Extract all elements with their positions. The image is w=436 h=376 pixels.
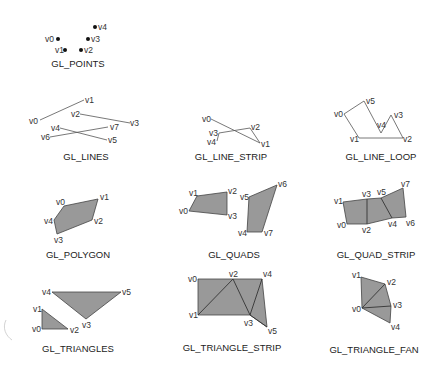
vertex-label: v3 [54,235,63,245]
vertex-label: v4 [42,287,51,297]
diagram-title: GL_POINTS [51,58,104,69]
vertex-label: v3 [228,211,237,221]
vertex-label: v3 [91,34,100,44]
panel-gl-polygon: v0 v1 v2 v3 v4 GL_POLYGON [44,192,110,260]
vertex-label: v5 [268,326,277,336]
diagram-title: GL_TRIANGLES [42,343,114,354]
vertex-label: v3 [394,110,403,120]
opengl-primitives-diagram: v0 v1 v2 v3 v4 GL_POINTS v0 v1 v2 v3 v4 … [0,0,436,376]
vertex-label: v3 [82,320,91,330]
vertex-label: v3 [393,300,402,310]
vertex-label: v4 [388,219,397,229]
vertex-label: v4 [377,120,386,130]
vertex-label: v1 [85,95,94,105]
vertex-label: v5 [240,192,249,202]
vertex-label: v2 [228,186,237,196]
vertex-label: v3 [362,189,371,199]
panel-gl-quad-strip: v0 v1 v2 v3 v4 v5 v6 v7 GL_QUAD_STRIP [334,179,415,260]
vertex-label: v2 [94,216,103,226]
diagram-title: GL_LINES [63,151,108,162]
vertex-label: v1 [352,270,361,280]
vertex-label: v7 [264,228,273,238]
panel-gl-line-strip: v0 v1 v2 v3 v4 GL_LINE_STRIP [195,114,270,162]
vertex-label: v6 [41,132,50,142]
diagram-title: GL_POLYGON [46,249,110,260]
stray-mark [4,320,12,340]
vertex-label: v4 [98,22,107,32]
panel-gl-line-loop: v0 v1 v2 v3 v4 v5 GL_LINE_LOOP [334,96,416,162]
diagram-title: GL_QUAD_STRIP [337,249,416,260]
vertex-label: v4 [238,228,247,238]
vertex-label: v0 [352,304,361,314]
vertex-label: v7 [401,179,410,189]
vertex-label: v2 [362,225,371,235]
vertex-label: v0 [334,109,343,119]
diagram-title: GL_TRIANGLE_FAN [329,344,418,355]
vertex-label: v1 [261,139,270,149]
vertex-label: v0 [202,114,211,124]
vertex-label: v1 [334,196,343,206]
vertex-label: v6 [406,218,415,228]
vertex-label: v0 [179,206,188,216]
vertex-label: v0 [337,220,346,230]
vertex-label: v2 [403,134,412,144]
vertex-label: v2 [251,122,260,132]
vertex-label: v4 [44,216,53,226]
diagram-title: GL_QUADS [208,249,260,260]
vertex-label: v4 [263,269,272,279]
panel-gl-quads: v0 v1 v2 v3 v4 v5 v6 v7 GL_QUADS [179,179,287,260]
vertex-label: v6 [278,179,287,189]
panel-gl-triangle-strip: v0 v1 v2 v3 v4 v5 GL_TRIANGLE_STRIP [183,269,282,353]
vertex-label: v3 [244,318,253,328]
vertex-label: v4 [207,137,216,147]
vertex-label: v4 [51,123,60,133]
panel-gl-triangles: v0 v1 v2 v3 v4 v5 GL_TRIANGLES [4,287,131,354]
diagram-title: GL_LINE_STRIP [195,151,267,162]
vertex-label: v5 [108,135,117,145]
vertex-label: v5 [366,96,375,106]
vertex-label: v1 [33,304,42,314]
vertex-label: v0 [29,116,38,126]
vertex-label: v1 [189,188,198,198]
panel-gl-triangle-fan: v0 v1 v2 v3 v4 GL_TRIANGLE_FAN [329,270,418,355]
vertex-label: v0 [56,197,65,207]
vertex-label: v0 [32,324,41,334]
vertex-label: v5 [122,287,131,297]
vertex-label: v0 [188,274,197,284]
vertex-label: v1 [350,134,359,144]
panel-gl-points: v0 v1 v2 v3 v4 GL_POINTS [45,22,107,69]
diagram-title: GL_TRIANGLE_STRIP [183,342,282,353]
vertex-label: v5 [377,187,386,197]
vertex-label: v2 [229,269,238,279]
vertex-label: v0 [45,34,54,44]
panel-gl-lines: v0 v1 v2 v3 v4 v5 v6 v7 GL_LINES [29,95,139,162]
vertex-label: v2 [84,45,93,55]
vertex-label: v1 [100,192,109,202]
diagram-title: GL_LINE_LOOP [346,151,417,162]
vertex-label: v2 [387,277,396,287]
vertex-label: v2 [70,325,79,335]
vertex-label: v3 [130,118,139,128]
vertex-label: v7 [110,122,119,132]
vertex-label: v1 [189,310,198,320]
vertex-label: v2 [71,109,80,119]
vertex-label: v1 [55,45,64,55]
vertex-label: v4 [391,322,400,332]
